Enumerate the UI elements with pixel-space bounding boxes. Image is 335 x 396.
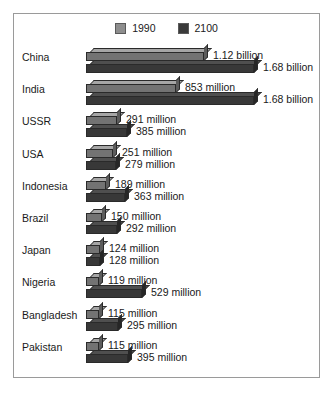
bar-end-cap [142, 281, 146, 298]
bar-front-face [86, 96, 254, 105]
row-bars: 853 million1.68 billion [86, 76, 319, 108]
bar-end-cap [204, 44, 208, 61]
bar-front-face [86, 128, 127, 137]
bar-2100-usa [86, 157, 116, 166]
chart-row: USA251 million279 million [14, 141, 319, 173]
legend-swatch-1990-icon [115, 23, 126, 34]
bar-2100-ussr [86, 124, 127, 133]
chart-row: Nigeria119 million529 million [14, 269, 319, 301]
chart-row: Bangladesh115 million295 million [14, 302, 319, 334]
row-label-pakistan: Pakistan [22, 342, 62, 353]
bar-front-face [86, 354, 128, 363]
bar-1990-china [86, 48, 204, 57]
chart-row: USSR291 million385 million [14, 108, 319, 140]
row-label-usa: USA [22, 149, 44, 160]
row-label-china: China [22, 52, 49, 63]
bar-front-face [86, 257, 100, 266]
bar-end-cap [125, 185, 129, 202]
row-bars: 251 million279 million [86, 141, 319, 173]
bar-end-cap [102, 205, 106, 222]
row-bars: 124 million128 million [86, 237, 319, 269]
bar-value-1990-pakistan: 115 million [108, 340, 157, 351]
bar-2100-indonesia [86, 189, 125, 198]
bar-1990-brazil [86, 209, 102, 218]
bar-front-face [86, 64, 254, 73]
bar-front-face [86, 225, 117, 234]
bar-value-2100-brazil: 292 million [126, 223, 176, 234]
bar-end-cap [99, 334, 103, 351]
bar-value-2100-indonesia: 363 million [134, 191, 184, 202]
bar-front-face [86, 193, 125, 202]
bar-1990-india [86, 80, 176, 89]
bar-front-face [86, 289, 142, 298]
bar-value-1990-indonesia: 189 million [115, 179, 165, 190]
bar-value-1990-japan: 124 million [109, 243, 159, 254]
bar-value-2100-india: 1.68 billion [263, 94, 313, 105]
row-bars: 189 million363 million [86, 173, 319, 205]
bar-front-face [86, 322, 118, 331]
bar-value-1990-bangladesh: 115 million [108, 308, 157, 319]
bar-2100-bangladesh [86, 318, 118, 327]
legend-label-2100: 2100 [195, 23, 218, 34]
bar-2100-pakistan [86, 350, 128, 359]
legend-entry-1990: 1990 [115, 23, 155, 34]
bar-1990-indonesia [86, 177, 106, 186]
row-label-ussr: USSR [22, 116, 51, 127]
chart-frame: 1990 2100 China1.12 billion1.68 billionI… [13, 13, 320, 378]
row-bars: 115 million395 million [86, 334, 319, 366]
bar-end-cap [100, 249, 104, 266]
bar-2100-japan [86, 253, 100, 262]
chart-row: India853 million1.68 billion [14, 76, 319, 108]
bar-end-cap [128, 346, 132, 363]
bar-end-cap [254, 56, 258, 73]
row-label-india: India [22, 84, 45, 95]
bar-2100-nigeria [86, 285, 142, 294]
row-bars: 1.12 billion1.68 billion [86, 44, 319, 76]
bar-1990-japan [86, 241, 100, 250]
bar-value-1990-usa: 251 million [122, 147, 172, 158]
bar-end-cap [118, 314, 122, 331]
row-label-indonesia: Indonesia [22, 181, 68, 192]
bar-1990-nigeria [86, 273, 99, 282]
bar-end-cap [254, 88, 258, 105]
bar-1990-bangladesh [86, 306, 99, 315]
bar-value-2100-pakistan: 395 million [137, 352, 187, 363]
row-label-nigeria: Nigeria [22, 277, 55, 288]
chart-legend: 1990 2100 [14, 23, 319, 34]
bar-value-2100-bangladesh: 295 million [127, 320, 177, 331]
row-label-bangladesh: Bangladesh [22, 310, 77, 321]
bar-1990-ussr [86, 112, 117, 121]
bar-value-2100-ussr: 385 million [136, 126, 186, 137]
row-bars: 291 million385 million [86, 108, 319, 140]
chart-row: Indonesia189 million363 million [14, 173, 319, 205]
chart-row: Pakistan115 million395 million [14, 334, 319, 366]
chart-rows: China1.12 billion1.68 billionIndia853 mi… [14, 44, 319, 377]
row-label-japan: Japan [22, 245, 51, 256]
legend-entry-2100: 2100 [178, 23, 218, 34]
bar-value-2100-nigeria: 529 million [151, 287, 201, 298]
bar-1990-pakistan [86, 338, 99, 347]
bar-value-2100-usa: 279 million [125, 159, 175, 170]
bar-end-cap [127, 120, 131, 137]
row-label-brazil: Brazil [22, 213, 48, 224]
bar-1990-usa [86, 145, 113, 154]
chart-row: China1.12 billion1.68 billion [14, 44, 319, 76]
bar-end-cap [176, 76, 180, 93]
bar-end-cap [117, 108, 121, 125]
row-bars: 115 million295 million [86, 302, 319, 334]
bar-end-cap [99, 269, 103, 286]
row-bars: 150 million292 million [86, 205, 319, 237]
bar-2100-china [86, 60, 254, 69]
legend-swatch-2100-icon [178, 23, 189, 34]
legend-label-1990: 1990 [132, 23, 155, 34]
chart-row: Brazil150 million292 million [14, 205, 319, 237]
bar-value-2100-japan: 128 million [109, 255, 159, 266]
bar-end-cap [99, 302, 103, 319]
bar-end-cap [117, 217, 121, 234]
row-bars: 119 million529 million [86, 269, 319, 301]
chart-row: Japan124 million128 million [14, 237, 319, 269]
bar-end-cap [116, 153, 120, 170]
bar-front-face [86, 161, 116, 170]
bar-end-cap [106, 173, 110, 190]
bar-2100-india [86, 92, 254, 101]
